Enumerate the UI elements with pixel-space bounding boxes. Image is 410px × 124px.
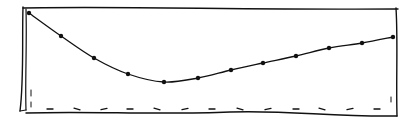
data-point bbox=[196, 76, 200, 80]
baseline-dash bbox=[154, 108, 160, 110]
baseline-dash bbox=[74, 108, 80, 110]
baseline-dash bbox=[347, 108, 353, 109]
baseline-dash bbox=[265, 108, 271, 109]
data-point bbox=[229, 68, 233, 72]
data-point bbox=[327, 46, 331, 50]
chart-frame bbox=[20, 7, 398, 116]
curve-line bbox=[29, 13, 393, 82]
baseline-dash bbox=[319, 108, 325, 110]
data-point bbox=[261, 61, 265, 65]
sketch-chart bbox=[0, 0, 410, 124]
data-points bbox=[27, 11, 395, 84]
data-point bbox=[92, 56, 96, 60]
data-point bbox=[162, 80, 166, 84]
data-point bbox=[27, 11, 31, 15]
data-point bbox=[360, 41, 364, 45]
baseline-dash bbox=[101, 108, 107, 109]
data-point bbox=[59, 34, 63, 38]
data-point bbox=[126, 72, 130, 76]
data-point bbox=[391, 35, 395, 39]
baseline-dash bbox=[237, 108, 243, 110]
data-point bbox=[294, 54, 298, 58]
baseline-dash bbox=[182, 108, 188, 109]
baseline-dashes bbox=[47, 108, 380, 110]
